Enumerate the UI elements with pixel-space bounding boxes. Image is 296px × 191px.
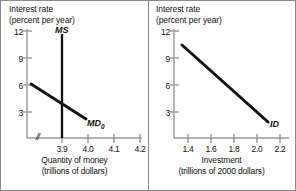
money-market-panel: Interest rate (percent per year) 12 9 6 … [1, 1, 148, 190]
right-plot-area [148, 1, 295, 161]
left-plot-area [1, 1, 148, 161]
right-x-axis-caption: Investment (trillions of 2000 dollars) [148, 155, 295, 177]
right-xtick-1-8: 1.8 [224, 144, 244, 154]
left-xtick-4-0: 4.0 [78, 144, 98, 154]
economics-figure: Interest rate (percent per year) 12 9 6 … [0, 0, 296, 191]
left-x-axis-caption-line1: Quantity of money [1, 155, 148, 166]
right-xtick-1-6: 1.6 [201, 144, 221, 154]
left-axis-break-icon: // [36, 132, 39, 142]
right-x-axis-caption-line2: (trillions of 2000 dollars) [148, 166, 295, 177]
left-xtick-4-1: 4.1 [104, 144, 124, 154]
money-demand-curve-label-text: MD [87, 118, 101, 128]
investment-demand-panel: Interest rate (percent per year) 12 9 6 … [148, 1, 295, 190]
left-xtick-3-9: 3.9 [52, 144, 72, 154]
money-demand-curve-label-subscript: 0 [101, 123, 105, 130]
left-xtick-4-2: 4.2 [130, 144, 150, 154]
right-xtick-1-4: 1.4 [178, 144, 198, 154]
right-x-axis-caption-line1: Investment [148, 155, 295, 166]
money-demand-curve-label: MD0 [87, 118, 105, 130]
left-x-axis-caption-line2: (trillions of dollars) [1, 166, 148, 177]
left-x-axis-caption: Quantity of money (trillions of dollars) [1, 155, 148, 177]
money-supply-curve-label: MS [55, 25, 69, 35]
right-xtick-2-2: 2.2 [270, 144, 290, 154]
investment-demand-curve-label: ID [270, 119, 279, 129]
right-xtick-2-0: 2.0 [247, 144, 267, 154]
